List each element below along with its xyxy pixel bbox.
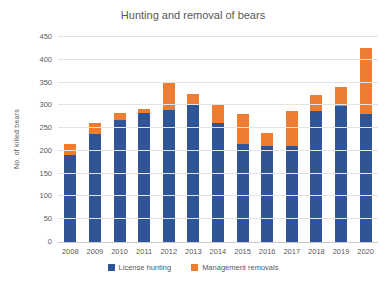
stacked-bar-2020 xyxy=(360,48,372,242)
y-axis-title: No. of killed bears xyxy=(13,37,24,242)
gridline-250 xyxy=(58,127,378,128)
y-tick-label-50: 50 xyxy=(28,214,52,224)
legend-swatch-management-removals xyxy=(191,264,198,271)
x-tick-label-2008: 2008 xyxy=(58,247,83,256)
y-tick-label-250: 250 xyxy=(28,123,52,133)
legend-item-license-hunting: License hunting xyxy=(108,263,172,272)
bar-cell-2015 xyxy=(230,114,255,242)
segment-license-hunting-2014 xyxy=(212,123,224,242)
y-tick-label-300: 300 xyxy=(28,100,52,110)
segment-license-hunting-2017 xyxy=(286,146,298,242)
legend-label-license-hunting: License hunting xyxy=(119,263,172,272)
stacked-bar-2011 xyxy=(138,109,150,242)
legend-item-management-removals: Management removals xyxy=(191,263,278,272)
bear-hunting-chart: Hunting and removal of bears No. of kill… xyxy=(0,0,386,288)
x-tick-label-2014: 2014 xyxy=(206,247,231,256)
segment-license-hunting-2010 xyxy=(114,120,126,242)
x-tick-label-2010: 2010 xyxy=(107,247,132,256)
legend-label-management-removals: Management removals xyxy=(202,263,278,272)
bar-cell-2020 xyxy=(353,48,378,242)
segment-license-hunting-2018 xyxy=(310,111,322,242)
segment-license-hunting-2008 xyxy=(64,155,76,242)
stacked-bar-2017 xyxy=(286,111,298,242)
segment-management-removals-2010 xyxy=(114,113,126,120)
gridline-50 xyxy=(58,218,378,219)
gridline-400 xyxy=(58,59,378,60)
y-tick-label-200: 200 xyxy=(28,146,52,156)
segment-license-hunting-2020 xyxy=(360,114,372,242)
bar-cell-2017 xyxy=(279,111,304,242)
y-tick-label-400: 400 xyxy=(28,55,52,65)
stacked-bar-2009 xyxy=(89,123,101,242)
bar-cell-2009 xyxy=(83,123,108,242)
x-tick-label-2020: 2020 xyxy=(353,247,378,256)
segment-management-removals-2017 xyxy=(286,111,298,146)
y-tick-label-350: 350 xyxy=(28,78,52,88)
segment-management-removals-2012 xyxy=(163,83,175,110)
bar-cell-2018 xyxy=(304,95,329,242)
segment-management-removals-2013 xyxy=(187,94,199,105)
chart-title: Hunting and removal of bears xyxy=(0,9,386,21)
segment-management-removals-2019 xyxy=(335,87,347,106)
x-tick-label-2009: 2009 xyxy=(83,247,108,256)
x-tick-label-2019: 2019 xyxy=(329,247,354,256)
segment-management-removals-2016 xyxy=(261,133,273,146)
x-tick-label-2016: 2016 xyxy=(255,247,280,256)
x-tick-label-2017: 2017 xyxy=(279,247,304,256)
stacked-bar-2013 xyxy=(187,94,199,242)
legend: License huntingManagement removals xyxy=(0,263,386,272)
segment-license-hunting-2016 xyxy=(261,146,273,242)
stacked-bar-2008 xyxy=(64,144,76,242)
gridline-200 xyxy=(58,150,378,151)
gridline-100 xyxy=(58,195,378,196)
stacked-bar-2010 xyxy=(114,113,126,242)
segment-management-removals-2014 xyxy=(212,105,224,123)
plot-area: 050100150200250300350400450 xyxy=(58,37,378,243)
segment-license-hunting-2012 xyxy=(163,110,175,242)
x-tick-label-2018: 2018 xyxy=(304,247,329,256)
y-tick-label-150: 150 xyxy=(28,169,52,179)
x-tick-label-2015: 2015 xyxy=(230,247,255,256)
bars-container xyxy=(58,37,378,242)
stacked-bar-2015 xyxy=(237,114,249,242)
y-tick-label-450: 450 xyxy=(28,32,52,42)
x-tick-label-2013: 2013 xyxy=(181,247,206,256)
gridline-150 xyxy=(58,173,378,174)
bar-cell-2014 xyxy=(206,105,231,242)
segment-license-hunting-2015 xyxy=(237,144,249,242)
gridline-300 xyxy=(58,104,378,105)
bar-cell-2011 xyxy=(132,109,157,242)
x-tick-label-2012: 2012 xyxy=(156,247,181,256)
bar-cell-2008 xyxy=(58,144,83,242)
x-tick-label-2011: 2011 xyxy=(132,247,157,256)
legend-swatch-license-hunting xyxy=(108,264,115,271)
bar-cell-2013 xyxy=(181,94,206,242)
gridline-450 xyxy=(58,36,378,37)
segment-management-removals-2015 xyxy=(237,114,249,144)
segment-management-removals-2018 xyxy=(310,95,322,110)
x-axis-labels: 2008200920102011201220132014201520162017… xyxy=(58,247,378,256)
y-tick-label-100: 100 xyxy=(28,191,52,201)
gridline-350 xyxy=(58,82,378,83)
stacked-bar-2014 xyxy=(212,105,224,242)
stacked-bar-2018 xyxy=(310,95,322,242)
y-tick-label-0: 0 xyxy=(28,237,52,247)
segment-license-hunting-2011 xyxy=(138,113,150,242)
bar-cell-2010 xyxy=(107,113,132,242)
